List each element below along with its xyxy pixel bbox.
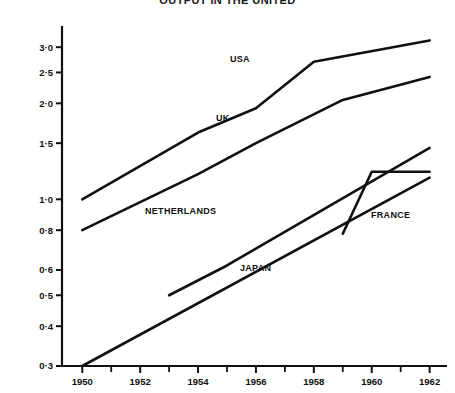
x-tick-label: 1954 [187,376,209,387]
series-label-uk: UK [216,113,230,123]
series-label-france: FRANCE [371,210,410,220]
series-label-japan: JAPAN [240,263,271,273]
y-tick-label: 0·3 [39,360,53,371]
x-tick-label: 1952 [130,376,151,387]
x-tick-label: 1960 [361,376,382,387]
y-tick-label: 2·5 [39,67,53,78]
chart-figure: OUTPUT IN THE UNITED 3·02·52·01·51·00·80… [0,0,455,393]
x-tick-label: 1950 [72,376,93,387]
x-tick-label: 1958 [303,376,324,387]
y-tick-label: 0·8 [39,225,53,236]
series-line-usa [82,40,429,199]
line-chart-plot: 3·02·52·01·51·00·80·60·50·40·3 195019521… [0,0,455,393]
series-lines [82,40,429,366]
chart-title-clipped: OUTPUT IN THE UNITED [0,0,455,9]
series-line-france [343,172,430,234]
x-tick-label: 1956 [245,376,266,387]
y-axis: 3·02·52·01·51·00·80·60·50·40·3 [39,26,62,371]
y-tick-label: 1·0 [39,194,53,205]
y-tick-label: 3·0 [39,42,53,53]
series-labels: USAUKNETHERLANDSFRANCEJAPAN [145,54,410,273]
y-tick-label: 2·0 [39,98,53,109]
y-tick-label: 0·4 [39,321,53,332]
chart-title: OUTPUT IN THE UNITED [0,0,455,6]
x-axis: 1950195219541956195819601962 [62,366,447,387]
y-tick-label: 1·5 [39,138,53,149]
x-tick-label: 1962 [419,376,440,387]
y-tick-label: 0·6 [39,264,53,275]
series-label-usa: USA [230,54,250,64]
series-label-netherlands: NETHERLANDS [145,206,216,216]
y-tick-label: 0·5 [39,290,53,301]
